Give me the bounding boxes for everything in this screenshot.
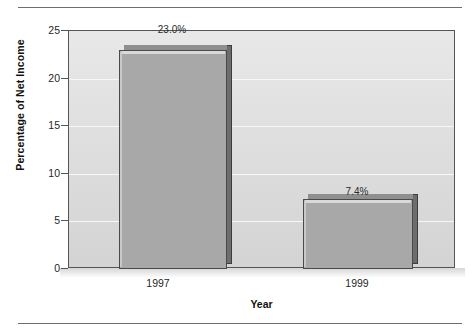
y-axis-title: Percentage of Net Income (14, 15, 26, 195)
plot-area (68, 30, 455, 268)
bar-1997-front-face (119, 50, 227, 269)
x-tick-label-1999: 1999 (302, 277, 412, 289)
y-tick-label-20: 20 (34, 72, 60, 84)
bar-1997-side-face (227, 45, 232, 264)
y-tick-label-15: 15 (34, 119, 60, 131)
y-tick-label-0: 0 (34, 262, 60, 274)
bar-1997-left-highlight (120, 52, 122, 267)
y-tick-mark-20 (61, 78, 68, 79)
bar-1999-side-face (413, 194, 418, 264)
y-tick-mark-25 (61, 30, 68, 31)
y-tick-label-25: 25 (34, 24, 60, 36)
bar-1999-front-face (303, 199, 413, 269)
bar-1997-top-face (124, 45, 227, 50)
x-tick-label-1997: 1997 (108, 277, 208, 289)
bar-1999-left-highlight (304, 201, 306, 267)
bar-1999-top-highlight (305, 200, 411, 203)
bottom-rule (18, 323, 462, 324)
y-tick-mark-15 (61, 125, 68, 126)
top-rule (18, 7, 462, 8)
y-tick-mark-5 (61, 220, 68, 221)
bar-label-1999: 7.4% (302, 186, 412, 197)
bar-1997-top-highlight (121, 51, 225, 54)
y-tick-mark-10 (61, 173, 68, 174)
y-tick-mark-0 (61, 268, 68, 269)
x-axis-title: Year (68, 298, 455, 310)
bar-1997[interactable] (119, 50, 227, 269)
bar-label-1997: 23.0% (122, 24, 222, 35)
y-tick-label-10: 10 (34, 167, 60, 179)
bar-chart-figure: 25 20 15 10 5 0 Percentage of Net Income (0, 0, 472, 334)
y-tick-label-5: 5 (34, 214, 60, 226)
bar-1999[interactable] (303, 199, 413, 269)
